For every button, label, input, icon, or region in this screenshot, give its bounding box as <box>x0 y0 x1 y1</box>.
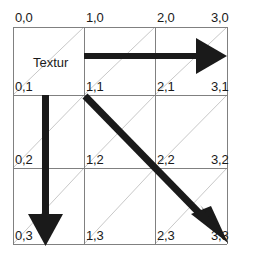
coord-label-0-2: 0,2 <box>15 153 32 166</box>
coord-label-3-0: 3,0 <box>211 11 228 24</box>
coord-label-1-3: 1,3 <box>86 229 103 242</box>
coord-label-1-0: 1,0 <box>86 11 103 24</box>
vertical-arrow-shaft <box>42 95 49 218</box>
grid-diagram-canvas <box>0 0 259 258</box>
coord-label-0-0: 0,0 <box>15 11 32 24</box>
coord-label-2-3: 2,3 <box>157 229 174 242</box>
coord-label-1-2: 1,2 <box>86 153 103 166</box>
coord-label-3-1: 3,1 <box>211 80 228 93</box>
vertical-arrow <box>28 95 63 246</box>
coord-label-2-2: 2,2 <box>157 153 174 166</box>
coord-label-1-1: 1,1 <box>86 80 103 93</box>
coord-label-3-2: 3,2 <box>211 153 228 166</box>
horizontal-arrow-shaft <box>84 53 200 59</box>
vertical-arrow-head <box>28 214 63 246</box>
coord-label-0-1: 0,1 <box>15 80 32 93</box>
horizontal-arrow-head <box>196 38 227 74</box>
coord-label-2-1: 2,1 <box>157 80 174 93</box>
texture-coordinate-figure: 0,0 1,0 2,0 3,0 0,1 1,1 2,1 3,1 0,2 1,2 … <box>0 0 259 258</box>
coord-label-0-3: 0,3 <box>15 229 32 242</box>
diagonal-arrow <box>85 96 228 243</box>
textur-caption: Textur <box>33 56 68 69</box>
coord-label-2-0: 2,0 <box>157 11 174 24</box>
coord-label-3-3: 3,3 <box>211 229 228 242</box>
